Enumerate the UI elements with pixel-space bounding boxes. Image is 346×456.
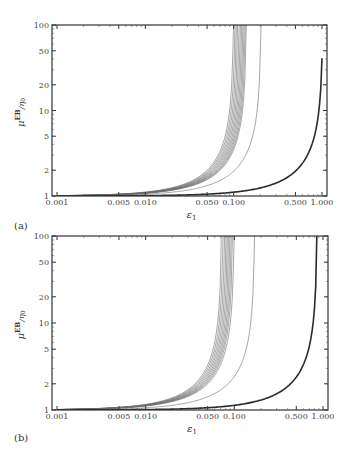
panel-label: (a) (14, 220, 28, 231)
curve-thick (57, 58, 322, 196)
y-axis-label: μEB/η0 (13, 98, 26, 127)
x-tick-label: 0.001 (46, 198, 69, 207)
x-tick-label: 0.001 (46, 412, 69, 421)
y-tick-label: 5 (44, 132, 49, 141)
y-tick-label: 5 (44, 345, 49, 354)
curve-thin-6 (57, 20, 241, 196)
curve-thin-11 (57, 20, 247, 196)
x-tick-label: 0.005 (107, 198, 130, 207)
panel-label: (b) (14, 432, 28, 443)
x-axis-label: ε1 (187, 423, 197, 436)
curve-thin-12 (57, 20, 261, 196)
y-tick-label: 50 (39, 47, 49, 56)
y-tick-label: 10 (39, 319, 49, 328)
curve-thin-10 (57, 231, 234, 410)
curve-thin-3 (57, 231, 225, 410)
x-tick-label: 0.010 (134, 198, 157, 207)
y-tick-label: 100 (34, 21, 49, 30)
curve-thick (57, 229, 317, 410)
y-tick-label: 20 (39, 293, 49, 302)
y-tick-label: 20 (39, 81, 49, 90)
x-tick-label: 0.050 (196, 198, 219, 207)
y-tick-label: 50 (39, 258, 49, 267)
x-tick-label: 0.005 (108, 412, 131, 421)
y-axis-label: μEB/η0 (13, 310, 26, 339)
x-tick-label: 0.050 (196, 412, 219, 421)
curve-thin-4 (57, 231, 226, 410)
curve-thin-5 (57, 229, 228, 409)
x-tick-label: 0.100 (222, 198, 245, 207)
x-tick-label: 0.500 (284, 198, 307, 207)
curve-thin-9 (57, 231, 233, 410)
x-tick-label: 0.500 (285, 412, 308, 421)
y-tick-label: 2 (44, 380, 49, 389)
curves (57, 18, 322, 196)
plot-frame (52, 236, 328, 410)
x-tick-label: 1.000 (311, 198, 334, 207)
curve-thin-6 (57, 229, 229, 409)
curve-thin-1 (57, 20, 234, 196)
y-tick-label: 2 (44, 166, 49, 175)
y-tick-label: 100 (34, 232, 49, 241)
x-tick-label: 0.010 (134, 412, 157, 421)
curves (57, 229, 317, 410)
x-tick-label: 0.100 (223, 412, 246, 421)
chart-panel-a: 1251020501000.0010.0050.0100.0500.1000.5… (13, 18, 333, 231)
x-axis-label: ε1 (187, 209, 197, 222)
plot-frame (52, 25, 327, 196)
curve-thin-8 (57, 231, 232, 410)
curve-thin-7 (57, 231, 230, 410)
curve-thin-2 (57, 231, 223, 409)
x-tick-label: 1.000 (312, 412, 335, 421)
curve-thin-1 (57, 229, 222, 409)
figure: 1251020501000.0010.0050.0100.0500.1000.5… (0, 0, 346, 456)
chart-panel-b: 1251020501000.0010.0050.0100.0500.1000.5… (13, 229, 334, 443)
y-tick-label: 10 (39, 107, 49, 116)
